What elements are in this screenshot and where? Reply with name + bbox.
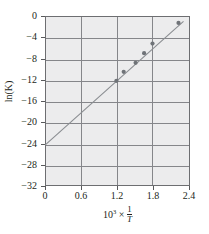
- data-layer: [0, 0, 209, 234]
- data-point: [176, 21, 180, 25]
- data-point: [122, 70, 126, 74]
- data-point: [142, 51, 146, 55]
- x-axis-fraction: 1 T: [127, 205, 132, 225]
- x-axis-title: 103 × 1 T: [45, 206, 190, 226]
- fraction-numerator: 1: [127, 205, 132, 214]
- best-fit-line: [45, 21, 184, 145]
- y-axis-title: ln(K): [3, 62, 14, 122]
- y-axis-title-text: ln(K): [3, 81, 14, 103]
- x-axis-exponent: 3: [113, 208, 116, 215]
- data-point: [150, 42, 154, 46]
- data-point: [134, 61, 138, 65]
- data-point-group: [114, 21, 180, 83]
- x-axis-coefficient: 10: [103, 209, 113, 220]
- chart-figure: 0 −4 −8 −12 −16 −20 −24 −28 −32 0 0.6 1.…: [0, 0, 209, 234]
- data-point: [114, 79, 118, 83]
- fraction-denominator: T: [127, 214, 132, 224]
- x-axis-times-symbol: ×: [119, 209, 125, 220]
